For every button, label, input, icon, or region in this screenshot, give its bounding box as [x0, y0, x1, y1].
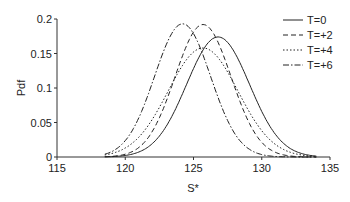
legend-label: T=0 [307, 14, 326, 26]
x-tick-label: 120 [116, 162, 134, 174]
series-line [105, 48, 316, 157]
x-tick-label: 130 [253, 162, 271, 174]
pdf-chart: 11512012513013500.050.10.150.2 T=0T=+2T=… [0, 0, 350, 202]
y-tick-label: 0.1 [37, 82, 52, 94]
x-axis-label: S* [187, 182, 199, 194]
legend-label: T=+4 [307, 44, 333, 56]
legend-label: T=+2 [307, 29, 333, 41]
y-tick-label: 0.15 [31, 48, 52, 60]
legend-label: T=+6 [307, 59, 333, 71]
y-tick-label: 0.05 [31, 117, 52, 129]
x-tick-label: 115 [48, 162, 66, 174]
y-tick-label: 0.2 [37, 13, 52, 25]
series-line [105, 25, 316, 158]
curves [105, 24, 316, 157]
series-line [105, 24, 316, 157]
y-tick-label: 0 [46, 151, 52, 163]
legend: T=0T=+2T=+4T=+6 [283, 14, 333, 71]
x-tick-label: 135 [321, 162, 339, 174]
x-tick-label: 125 [184, 162, 202, 174]
y-axis-label: Pdf [15, 79, 27, 96]
